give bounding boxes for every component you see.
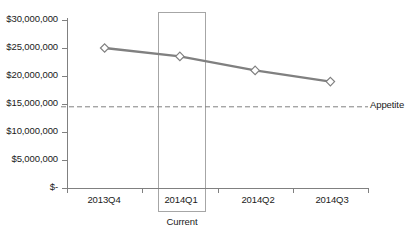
x-axis-tick <box>218 188 219 193</box>
current-period-callout-label: Current <box>167 216 198 227</box>
y-axis-tick-label: $30,000,000 <box>6 13 58 24</box>
y-axis-tick-label: $5,000,000 <box>11 153 58 164</box>
y-axis-tick: $10,000,000 <box>62 132 67 133</box>
series-line <box>105 48 331 82</box>
appetite-threshold-label: Appetite <box>370 99 404 110</box>
x-axis-tick <box>368 188 369 193</box>
data-point-marker <box>100 44 108 52</box>
y-axis-tick-label: $10,000,000 <box>6 125 58 136</box>
y-axis-tick-label: $15,000,000 <box>6 97 58 108</box>
data-point-marker <box>326 77 334 85</box>
chart-canvas: $30,000,000 $25,000,000 $20,000,000 $15,… <box>0 0 406 242</box>
x-axis-label-2014q2: 2014Q2 <box>241 194 274 205</box>
y-axis-tick-label: $20,000,000 <box>6 69 58 80</box>
x-axis-tick <box>142 188 143 193</box>
x-axis-tick <box>67 188 68 193</box>
x-axis-label-2014q3: 2014Q3 <box>315 194 348 205</box>
current-period-highlight-box <box>158 12 206 212</box>
y-axis-tick: $5,000,000 <box>62 160 67 161</box>
x-axis-label-2014q1: 2014Q1 <box>164 194 197 205</box>
x-axis-label-2013q4: 2013Q4 <box>87 194 120 205</box>
y-axis-tick: $20,000,000 <box>62 76 67 77</box>
y-axis-tick-label: $25,000,000 <box>6 41 58 52</box>
y-axis-tick: $15,000,000 <box>62 104 67 105</box>
y-axis-tick: $25,000,000 <box>62 48 67 49</box>
x-axis-tick <box>293 188 294 193</box>
y-axis-tick: $30,000,000 <box>62 20 67 21</box>
data-point-marker <box>251 66 259 74</box>
y-axis-tick-label: $- <box>50 181 58 192</box>
y-axis-line <box>67 18 68 189</box>
